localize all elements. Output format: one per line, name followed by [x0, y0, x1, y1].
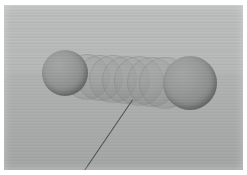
sphere-start — [42, 50, 88, 96]
sphere-end — [163, 56, 217, 110]
scene-frame — [4, 5, 243, 170]
render-viewport — [0, 0, 247, 175]
